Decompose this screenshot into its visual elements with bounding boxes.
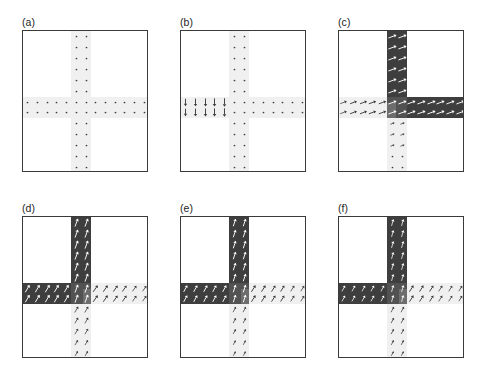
spin-arrow [240, 240, 249, 249]
spin-arrow [398, 32, 407, 41]
spin-arrow [269, 98, 278, 107]
spin-arrow [427, 294, 436, 303]
spin-arrow [82, 141, 91, 150]
spin-arrow [388, 229, 397, 238]
spin-arrow [230, 152, 239, 161]
spin-arrow [72, 65, 81, 74]
spin-arrow [33, 98, 42, 107]
spin-arrow [388, 76, 397, 85]
spin-arrow [388, 130, 397, 139]
spin-arrow [230, 130, 239, 139]
spin-arrow [259, 108, 268, 117]
spin-arrow [349, 98, 358, 107]
spin-arrow [72, 327, 81, 336]
spin-arrow [398, 163, 407, 172]
spin-arrow [43, 98, 52, 107]
spin-arrow [378, 294, 387, 303]
spin-arrow [33, 284, 42, 293]
spin-arrow [446, 108, 455, 117]
panel-frame-e [180, 216, 306, 358]
spin-arrow [33, 294, 42, 303]
spin-arrow [339, 294, 348, 303]
spin-arrow [33, 108, 42, 117]
spin-arrow [220, 284, 229, 293]
spin-arrow [62, 294, 71, 303]
spin-arrow [398, 119, 407, 128]
spin-arrow [398, 294, 407, 303]
panel-frame-d [22, 216, 148, 358]
spin-arrow [201, 98, 210, 107]
spin-arrow [72, 87, 81, 96]
spin-arrow [111, 98, 120, 107]
spin-arrow [230, 349, 239, 358]
spin-arrow [388, 87, 397, 96]
spin-arrow [230, 305, 239, 314]
spin-arrow [82, 338, 91, 347]
spin-arrow [82, 251, 91, 260]
spin-arrow [417, 294, 426, 303]
spin-arrow [388, 141, 397, 150]
spin-arrow [388, 273, 397, 282]
spin-arrow [427, 108, 436, 117]
figure-root: (a)(b)(c)(d)(e)(f) [0, 0, 478, 376]
spin-arrow [388, 54, 397, 63]
spin-arrow [388, 316, 397, 325]
spin-arrow [339, 284, 348, 293]
spin-arrow [82, 152, 91, 161]
spin-arrow [111, 284, 120, 293]
spin-arrow [288, 294, 297, 303]
spin-arrow [230, 65, 239, 74]
spin-arrow [23, 98, 32, 107]
spin-arrow [82, 108, 91, 117]
spin-arrow [398, 229, 407, 238]
spin-arrow [288, 108, 297, 117]
spin-arrow [111, 108, 120, 117]
spin-arrow [240, 284, 249, 293]
spin-arrow [339, 108, 348, 117]
spin-arrow [378, 284, 387, 293]
spin-arrow [210, 108, 219, 117]
spin-arrow [417, 98, 426, 107]
panel-frame-c [338, 30, 464, 172]
spin-arrow [72, 76, 81, 85]
panel-label-e: (e) [180, 202, 193, 214]
spin-arrow [101, 108, 110, 117]
spin-arrow [398, 240, 407, 249]
spin-arrow [23, 284, 32, 293]
spin-arrow [191, 108, 200, 117]
spin-arrow [201, 108, 210, 117]
spin-arrow [240, 65, 249, 74]
spin-arrow [398, 218, 407, 227]
spin-arrow [230, 338, 239, 347]
spin-arrow [91, 284, 100, 293]
spin-arrow [72, 152, 81, 161]
spin-arrow [230, 54, 239, 63]
spin-arrow [398, 152, 407, 161]
spin-arrow [398, 54, 407, 63]
spin-arrow [230, 251, 239, 260]
spin-arrow [72, 240, 81, 249]
spin-arrow [388, 32, 397, 41]
spin-arrow [82, 43, 91, 52]
panel-frame-b [180, 30, 306, 172]
spin-arrow [398, 108, 407, 117]
spin-arrow [230, 108, 239, 117]
spin-arrow [456, 98, 464, 107]
spin-arrow [269, 108, 278, 117]
panel-b: (b) [180, 16, 306, 172]
spin-arrow [298, 284, 306, 293]
spin-arrow [220, 294, 229, 303]
spin-arrow [72, 43, 81, 52]
spin-arrow [82, 316, 91, 325]
spin-arrow [240, 294, 249, 303]
spin-arrow [240, 141, 249, 150]
spin-arrow [62, 98, 71, 107]
spin-arrow [111, 294, 120, 303]
spin-arrow [417, 284, 426, 293]
spin-arrow [240, 327, 249, 336]
spin-arrow [230, 284, 239, 293]
spin-arrow [82, 119, 91, 128]
spin-arrow [398, 141, 407, 150]
spin-arrow [120, 98, 129, 107]
spin-arrow [191, 98, 200, 107]
